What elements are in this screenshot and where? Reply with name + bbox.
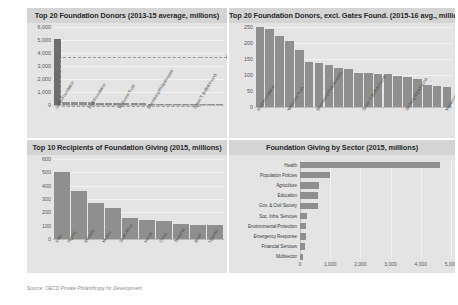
panel-top-20-donors-excl-gates: Top 20 Foundation Donors, excl. Gates Fo… <box>229 8 455 138</box>
y-tick-label: 0 <box>250 104 253 110</box>
bar <box>300 182 319 188</box>
category-label: Agriculture <box>229 183 300 188</box>
panel-title-top-left: Top 20 Foundation Donors (2013-15 averag… <box>27 8 227 23</box>
panel-title-bottom-right: Foundation Giving by Sector (2015, milli… <box>229 140 455 155</box>
bar <box>433 86 442 107</box>
category-label: Education <box>229 193 300 198</box>
bar <box>256 27 265 107</box>
callout-arrow-icon <box>226 55 227 59</box>
category-label: Gov. & Civil Society <box>229 203 300 208</box>
y-tick-label: 500 <box>42 169 51 175</box>
y-tick-label: 150 <box>244 56 253 62</box>
callout-connector <box>200 57 227 58</box>
plot-canvas-bottom-left <box>53 159 224 239</box>
y-tick-label: 0 <box>48 102 51 108</box>
bar <box>300 162 440 168</box>
bar-chart-donors-excl-gates: 050100150200250 Ford FoundationWellcome … <box>229 23 455 138</box>
bar <box>300 172 330 178</box>
x-axis-bottom-right: 01,0002,0003,0004,0005,000 <box>300 261 451 269</box>
bar-row: Health <box>229 161 451 169</box>
x-axis-labels-top-right: Ford FoundationWellcome TrustBloomberg P… <box>255 109 452 114</box>
bar-chart-top-10-recipients: 0100200300400500600 IndiaNigeriaEthiopia… <box>27 155 227 273</box>
bar <box>300 192 318 198</box>
bar-track <box>300 192 451 198</box>
x-axis-labels-top-left: Gates FoundationFord FoundationWellcome … <box>53 107 224 112</box>
panel-title-top-right: Top 20 Foundation Donors, excl. Gates Fo… <box>229 8 455 23</box>
panel-title-bottom-left: Top 10 Recipients of Foundation Giving (… <box>27 140 227 155</box>
bar-series-top-right <box>255 27 452 107</box>
x-tick-label: 3,000 <box>384 261 397 267</box>
bar <box>207 104 214 105</box>
y-tick-label: 100 <box>244 72 253 78</box>
panel-top-20-foundation-donors: Top 20 Foundation Donors (2013-15 averag… <box>27 8 227 138</box>
bar-track <box>300 162 451 168</box>
y-tick-label: 5,000 <box>38 37 52 43</box>
y-tick-label: 250 <box>244 24 253 30</box>
y-tick-label: 0 <box>48 236 51 242</box>
y-tick-label: 2,000 <box>38 76 52 82</box>
x-tick-label: 2,000 <box>354 261 367 267</box>
x-tick-label: 5,000 <box>445 261 455 267</box>
category-label: Soc. Infra. Services <box>229 214 300 219</box>
bar <box>300 213 307 219</box>
bar-track <box>300 182 451 188</box>
bar <box>275 36 284 107</box>
bar-track <box>300 223 451 229</box>
bar <box>354 73 363 107</box>
bar <box>393 76 402 107</box>
x-tick-label: 0 <box>299 261 302 267</box>
x-tick-label: 4,000 <box>415 261 428 267</box>
y-tick-label: 100 <box>42 223 51 229</box>
category-label: Population Policies <box>229 173 300 178</box>
bar <box>216 104 223 105</box>
y-tick-label: 400 <box>42 183 51 189</box>
bar-track <box>300 213 451 219</box>
bar-row: Education <box>229 192 451 200</box>
bar <box>300 254 303 260</box>
x-tick-label: 1,000 <box>324 261 337 267</box>
infographic-page: Top 20 Foundation Donors (2013-15 averag… <box>0 0 458 305</box>
bar-row: Population Policies <box>229 171 451 179</box>
panel-giving-by-sector: Foundation Giving by Sector (2015, milli… <box>229 140 455 273</box>
y-axis-bottom-left: 0100200300400500600 <box>27 159 53 273</box>
bar-row: Emergency Response <box>229 232 451 240</box>
bar-chart-giving-by-sector: HealthPopulation PoliciesAgricultureEduc… <box>229 155 455 273</box>
category-label: Multisector <box>229 254 300 259</box>
bar <box>423 85 432 107</box>
bar-row: Gov. & Civil Society <box>229 202 451 210</box>
category-label: Health <box>229 163 300 168</box>
plot-area-top-right: 050100150200250 Ford FoundationWellcome … <box>229 23 455 138</box>
x-axis-labels-bottom-left: IndiaNigeriaEthiopiaMexicoSouth AfricaKe… <box>53 241 224 246</box>
y-tick-label: 200 <box>244 40 253 46</box>
bar-series-bottom-left <box>53 159 224 239</box>
category-label: Environmental Protection <box>229 224 300 229</box>
plot-area-bottom-left: 0100200300400500600 IndiaNigeriaEthiopia… <box>27 155 227 273</box>
y-tick-label: 200 <box>42 209 51 215</box>
bar <box>305 62 314 107</box>
y-tick-label: 1,000 <box>38 89 52 95</box>
y-tick-label: 50 <box>247 88 253 94</box>
callout-box <box>60 57 201 107</box>
bar-track <box>300 243 451 249</box>
plot-area-bottom-right: HealthPopulation PoliciesAgricultureEduc… <box>229 155 455 273</box>
bar-row: Financial Services <box>229 243 451 251</box>
category-label: Emergency Response <box>229 234 300 239</box>
panel-top-10-recipients: Top 10 Recipients of Foundation Giving (… <box>27 140 227 273</box>
bar-track <box>300 254 451 260</box>
plot-canvas-top-right <box>255 27 452 107</box>
category-label: Financial Services <box>229 244 300 249</box>
bar <box>300 233 306 239</box>
y-tick-label: 4,000 <box>38 50 52 56</box>
bar-track <box>300 233 451 239</box>
bar-track <box>300 172 451 178</box>
bar-row: Agriculture <box>229 181 451 189</box>
bar <box>344 69 353 107</box>
bar-row: Multisector <box>229 253 451 261</box>
bar-row: Soc. Infra. Services <box>229 212 451 220</box>
bar <box>300 223 306 229</box>
source-note: Source: OECD Private Philanthropy for De… <box>27 286 142 291</box>
y-tick-label: 3,000 <box>38 63 52 69</box>
y-axis-top-right: 050100150200250 <box>229 27 255 138</box>
bar <box>54 172 70 239</box>
bar-chart-top-20-donors: 01,0002,0003,0004,0005,0006,000 Gates Fo… <box>27 23 227 138</box>
